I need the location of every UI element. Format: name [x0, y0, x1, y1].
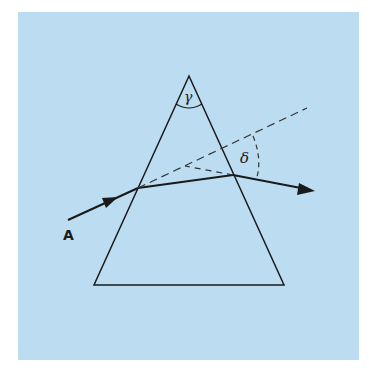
incoming-ray [68, 188, 138, 220]
emergent-extension-dashed [185, 166, 233, 175]
incoming-ray-label: A [63, 227, 74, 243]
outgoing-arrow-icon [297, 183, 315, 195]
deviation-angle-arc [253, 136, 259, 177]
deviation-angle-label: δ [240, 149, 249, 167]
incoming-arrow-icon [102, 197, 118, 208]
prism-diagram: γ δ A [0, 0, 369, 374]
apex-angle-label: γ [184, 89, 193, 105]
outgoing-ray [233, 175, 306, 189]
